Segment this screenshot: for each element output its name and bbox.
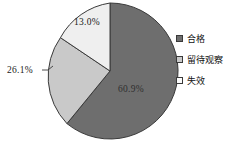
slice-label-shixiao: 13.0%	[74, 17, 100, 27]
legend-item-label: 合格	[187, 34, 205, 44]
legend-swatch-icon	[176, 77, 183, 84]
pie-chart: 60.9% 26.1% 13.0% 合格 留待观察 失效	[0, 0, 234, 143]
legend: 合格 留待观察 失效	[176, 32, 234, 95]
legend-item-hege[interactable]: 合格	[176, 32, 234, 45]
legend-item-liudaiguancha[interactable]: 留待观察	[176, 53, 234, 66]
slice-label-liudaiguancha: 26.1%	[7, 65, 33, 75]
legend-item-shixiao[interactable]: 失效	[176, 74, 234, 87]
legend-swatch-icon	[176, 56, 183, 63]
legend-item-label: 失效	[187, 76, 205, 86]
legend-swatch-icon	[176, 35, 183, 42]
legend-item-label: 留待观察	[187, 55, 223, 65]
slice-label-hege: 60.9%	[118, 84, 144, 94]
